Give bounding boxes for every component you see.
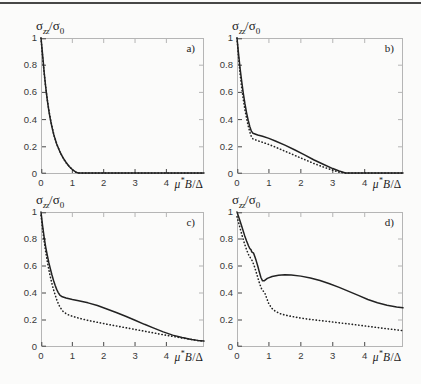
x-axis-label: μ*B/Δ bbox=[373, 178, 401, 190]
x-tick-label: 0 bbox=[228, 351, 246, 361]
y-tick-label: 1 bbox=[204, 207, 233, 217]
top-rule bbox=[0, 2, 421, 4]
curve-dotted bbox=[41, 38, 204, 173]
y-tick-label: 0.2 bbox=[204, 315, 233, 325]
subplot-a: σzz/σ0 a) μ*B/Δ 0123400.20.40.60.81 bbox=[41, 38, 204, 174]
y-tick-label: 0.6 bbox=[204, 261, 233, 271]
plot-frame bbox=[238, 39, 403, 174]
curve-solid bbox=[237, 212, 403, 308]
x-tick-label: 3 bbox=[324, 351, 342, 361]
figure-canvas: σzz/σ0 a) μ*B/Δ 0123400.20.40.60.81 σzz/… bbox=[0, 0, 421, 384]
y-axis-title: σzz/σ0 bbox=[232, 192, 260, 210]
x-tick-label: 0 bbox=[32, 351, 50, 361]
x-tick-label: 1 bbox=[260, 351, 278, 361]
x-tick-label: 3 bbox=[126, 178, 144, 188]
y-tick-label: 0.6 bbox=[204, 87, 233, 97]
y-tick-label: 0.4 bbox=[204, 115, 233, 125]
x-axis-label: μ*B/Δ bbox=[373, 351, 401, 363]
x-tick-label: 2 bbox=[95, 351, 113, 361]
x-tick-label: 4 bbox=[157, 178, 175, 188]
y-tick-label: 1 bbox=[8, 33, 37, 43]
subplot-b: σzz/σ0 b) μ*B/Δ 0123400.20.40.60.81 bbox=[237, 38, 403, 174]
x-tick-label: 4 bbox=[356, 351, 374, 361]
y-axis-title: σzz/σ0 bbox=[36, 192, 64, 210]
curve-solid bbox=[41, 38, 204, 173]
y-axis-title: σzz/σ0 bbox=[36, 18, 64, 36]
x-tick-label: 2 bbox=[292, 178, 310, 188]
y-tick-label: 0.6 bbox=[8, 87, 37, 97]
plot-area-c bbox=[41, 212, 204, 347]
y-tick-label: 0 bbox=[8, 169, 37, 179]
x-tick-label: 0 bbox=[228, 178, 246, 188]
x-tick-label: 1 bbox=[63, 351, 81, 361]
y-tick-label: 0.4 bbox=[8, 115, 37, 125]
panel-label-c: c) bbox=[186, 216, 195, 228]
x-tick-label: 3 bbox=[126, 351, 144, 361]
curve-solid bbox=[237, 38, 403, 173]
x-axis-label: μ*B/Δ bbox=[174, 178, 202, 190]
x-tick-label: 4 bbox=[356, 178, 374, 188]
y-tick-label: 0 bbox=[204, 342, 233, 352]
panel-label-b: b) bbox=[385, 42, 394, 54]
x-tick-label: 3 bbox=[324, 178, 342, 188]
y-tick-label: 0 bbox=[204, 169, 233, 179]
curve-solid bbox=[41, 212, 204, 341]
curve-dotted bbox=[237, 217, 403, 331]
x-tick-label: 0 bbox=[32, 178, 50, 188]
y-tick-label: 0.8 bbox=[204, 60, 233, 70]
panel-label-d: d) bbox=[385, 216, 394, 228]
y-tick-label: 0.2 bbox=[8, 142, 37, 152]
plot-area-b bbox=[237, 38, 403, 174]
plot-area-a bbox=[41, 38, 204, 174]
y-tick-label: 0.2 bbox=[204, 142, 233, 152]
plot-frame bbox=[42, 39, 204, 174]
y-tick-label: 0.4 bbox=[204, 288, 233, 298]
plot-frame bbox=[42, 213, 204, 347]
x-tick-label: 2 bbox=[292, 351, 310, 361]
x-tick-label: 1 bbox=[260, 178, 278, 188]
curve-dotted bbox=[41, 215, 204, 341]
x-axis-label: μ*B/Δ bbox=[174, 351, 202, 363]
y-axis-title: σzz/σ0 bbox=[232, 18, 260, 36]
x-tick-label: 2 bbox=[95, 178, 113, 188]
y-tick-label: 0.4 bbox=[8, 288, 37, 298]
y-tick-label: 0.8 bbox=[204, 234, 233, 244]
subplot-d: σzz/σ0 d) μ*B/Δ 0123400.20.40.60.81 bbox=[237, 212, 403, 347]
subplot-c: σzz/σ0 c) μ*B/Δ 0123400.20.40.60.81 bbox=[41, 212, 204, 347]
plot-area-d bbox=[237, 212, 403, 347]
y-tick-label: 0.8 bbox=[8, 234, 37, 244]
curve-dotted bbox=[237, 38, 403, 173]
y-tick-label: 0.6 bbox=[8, 261, 37, 271]
x-tick-label: 1 bbox=[63, 178, 81, 188]
x-tick-label: 4 bbox=[157, 351, 175, 361]
panel-label-a: a) bbox=[186, 42, 195, 54]
y-tick-label: 0.8 bbox=[8, 60, 37, 70]
y-tick-label: 1 bbox=[204, 33, 233, 43]
y-tick-label: 0 bbox=[8, 342, 37, 352]
y-tick-label: 0.2 bbox=[8, 315, 37, 325]
y-tick-label: 1 bbox=[8, 207, 37, 217]
